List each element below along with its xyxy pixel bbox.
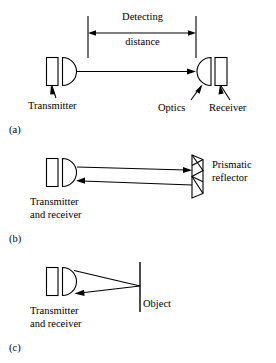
panel-tag-c: (c) — [9, 342, 21, 353]
dimension-arrowhead-left — [88, 30, 96, 36]
beam-outgoing-b — [77, 167, 186, 170]
beam-returning-arrowhead-c — [75, 290, 85, 296]
beam-returning-b — [82, 181, 192, 185]
transmitter-label-a: Transmitter — [28, 100, 77, 113]
detecting-distance-label-line2: distance — [105, 36, 180, 47]
device-body-rect-c — [47, 268, 59, 296]
leader-transmitter-arrow-a — [50, 85, 55, 95]
beam-returning-c — [80, 286, 140, 293]
panel-b-graphics — [47, 155, 204, 198]
beam-arrowhead-a — [187, 68, 196, 74]
device-label-c-line1: Transmitter — [30, 305, 79, 318]
prismatic-reflector-label-line1: Prismatic — [212, 159, 252, 172]
figure-canvas: Detecting distance Transmitter Optics Re… — [0, 0, 276, 363]
beam-outgoing-c — [74, 271, 140, 287]
detecting-distance-label-line1: Detecting — [105, 11, 180, 22]
receiver-label-a: Receiver — [209, 102, 246, 115]
beam-returning-arrowhead-b — [76, 178, 85, 184]
panel-a-graphics — [47, 16, 231, 100]
transmitter-optics-lens-a — [63, 58, 77, 86]
device-label-c-line2: and receiver — [30, 318, 82, 331]
device-label-b-line2: and receiver — [30, 209, 82, 222]
device-body-rect-b — [47, 159, 59, 187]
panel-tag-b: (b) — [9, 233, 21, 244]
device-label-b-line1: Transmitter — [30, 196, 79, 209]
transmitter-body-rect-a — [47, 58, 59, 86]
optics-label-a: Optics — [158, 102, 185, 115]
device-optics-lens-b — [63, 159, 77, 187]
receiver-body-rect-a — [215, 58, 227, 86]
object-label-c: Object — [143, 298, 171, 311]
panel-tag-a: (a) — [9, 124, 21, 135]
prismatic-reflector-facet-line2-b — [192, 160, 203, 166]
receiver-optics-lens-a — [197, 58, 211, 86]
device-optics-lens-c — [63, 268, 77, 296]
beam-outgoing-arrowhead-b — [183, 167, 192, 173]
dimension-arrowhead-right — [188, 30, 196, 36]
prismatic-reflector-label-line2: reflector — [212, 172, 248, 185]
